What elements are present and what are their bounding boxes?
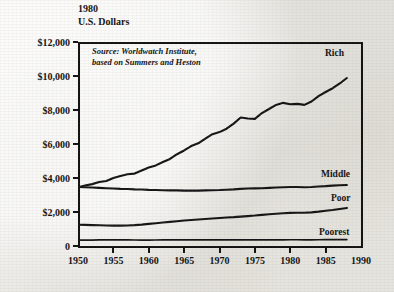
series-line-middle [78,185,347,191]
x-axis-tick-label: 1955 [103,255,123,266]
series-label-poor: Poor [331,193,351,203]
x-axis-tick [112,248,114,253]
x-axis-tick-label: 1970 [210,255,230,266]
x-axis-tick [183,248,185,253]
series-lines [78,42,363,248]
x-axis-tick [325,248,327,253]
x-axis-tick [148,248,150,253]
x-axis-tick-label: 1990 [351,255,371,266]
x-axis-tick-label: 1960 [139,255,159,266]
x-axis-tick [289,248,291,253]
y-axis-tick-label: $10,000 [38,71,71,82]
x-axis-tick [219,248,221,253]
source-note-line-2: based on Summers and Heston [92,57,201,68]
series-label-rich: Rich [325,48,344,58]
y-axis-tick-label: $4,000 [43,173,71,184]
series-line-poor [78,208,347,226]
source-note: Source: Worldwatch Institute, based on S… [92,46,201,67]
series-label-poorest: Poorest [319,227,349,237]
x-axis-tick-label: 1950 [68,255,88,266]
series-line-poorest [78,240,347,241]
source-note-line-1: Source: Worldwatch Institute, [92,46,201,57]
y-axis-tick-label: $6,000 [43,139,71,150]
x-axis-tick-label: 1975 [245,255,265,266]
series-line-rich [78,78,347,187]
x-axis-tick-label: 1980 [280,255,300,266]
x-axis-tick-label: 1985 [316,255,336,266]
x-axis-tick [254,248,256,253]
y-axis-tick-label: 0 [65,241,70,252]
y-axis-tick-label: $2,000 [43,207,71,218]
x-axis-tick-label: 1965 [174,255,194,266]
chart-plot-area: $12,000$10,000$8,000$6,000$4,000$2,0000 … [78,42,363,247]
series-label-middle: Middle [321,169,350,179]
y-axis-tick-label: $12,000 [38,37,71,48]
y-axis-tick-label: $8,000 [43,105,71,116]
